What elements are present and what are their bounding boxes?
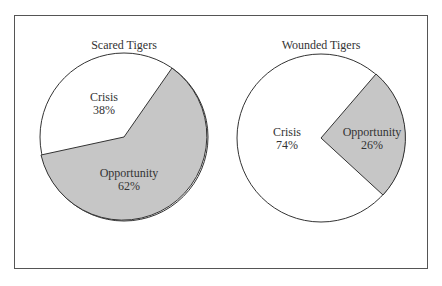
pie-2-opportunity-pct: 26% <box>327 139 417 152</box>
pie-1-opportunity-label: Opportunity 62% <box>84 167 174 193</box>
pie-2-title: Wounded Tigers <box>241 38 401 53</box>
pie-scared-tigers <box>40 53 208 221</box>
pie-1-opportunity-pct: 62% <box>84 180 174 193</box>
pie-2-crisis-label: Crisis 74% <box>242 126 332 152</box>
pie-1-crisis-label: Crisis 38% <box>59 91 149 117</box>
pie-1-title: Scared Tigers <box>44 38 204 53</box>
pie-2-crisis-pct: 74% <box>242 139 332 152</box>
pie-1-crisis-pct: 38% <box>59 104 149 117</box>
pie-2-opportunity-label: Opportunity 26% <box>327 126 417 152</box>
